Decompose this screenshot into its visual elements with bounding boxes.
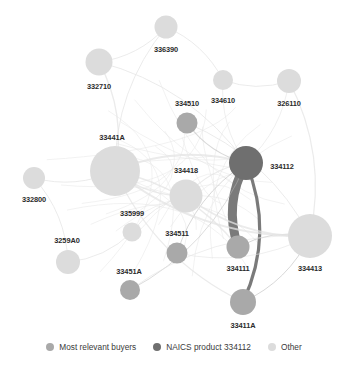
legend-item-1[interactable]: NAICS product 334112 [153,342,251,352]
graph-node-334111[interactable] [227,236,250,259]
legend-swatch-icon [46,343,54,351]
graph-edge [166,27,223,80]
legend-swatch-icon [153,343,161,351]
graph-edge [130,236,310,290]
graph-edge [34,178,68,262]
graph-node-335999[interactable] [123,223,142,242]
node-layer [23,16,332,316]
graph-node-326110[interactable] [277,69,301,93]
graph-node-334413[interactable] [288,214,332,258]
legend-item-0[interactable]: Most relevant buyers [46,342,136,352]
graph-node-332800[interactable] [23,167,45,189]
legend-label: Most relevant buyers [59,342,136,352]
legend-label: Other [281,342,302,352]
graph-node-334511[interactable] [167,243,188,264]
graph-node-334510[interactable] [177,113,198,134]
graph-node-33411A[interactable] [230,289,256,315]
graph-node-334418[interactable] [170,180,203,213]
legend-item-2[interactable]: Other [268,342,302,352]
graph-node-33451A[interactable] [120,280,140,300]
graph-node-336390[interactable] [155,16,178,39]
graph-edge-halo [47,107,236,159]
graph-node-332710[interactable] [86,49,113,76]
graph-node-33441A[interactable] [90,146,140,196]
graph-canvas [0,0,348,330]
graph-node-3259A0[interactable] [56,250,80,274]
graph-edge [289,81,315,236]
legend-label: NAICS product 334112 [166,342,251,352]
legend-swatch-icon [268,343,276,351]
legend: Most relevant buyersNAICS product 334112… [0,332,348,362]
network-graph-figure: 33639033271033461032611033451033441A3341… [0,0,348,366]
graph-node-334610[interactable] [213,70,233,90]
graph-node-334112[interactable] [229,146,263,180]
